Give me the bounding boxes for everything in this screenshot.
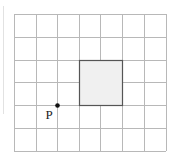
point-p-marker — [55, 103, 60, 108]
shaded-rectangle — [80, 61, 123, 106]
point-p-label: P — [46, 108, 53, 121]
grid-diagram — [0, 0, 175, 157]
